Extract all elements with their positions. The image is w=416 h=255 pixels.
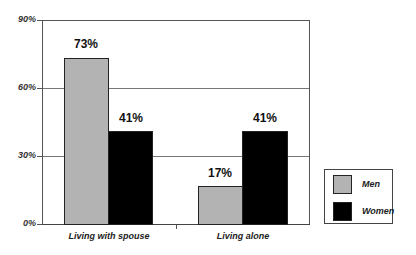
y-label-0: 0%: [2, 218, 36, 228]
bar-women-living-alone: [242, 131, 288, 225]
x-tick: [176, 225, 177, 229]
legend: Men Women: [324, 169, 393, 224]
bar-men-living-alone: [198, 186, 243, 225]
y-label-90: 90%: [2, 14, 36, 24]
y-tick: [37, 20, 42, 21]
legend-swatch-men: [333, 175, 352, 194]
category-label: Living alone: [176, 231, 310, 241]
bar-men-living-with-spouse: [64, 58, 109, 225]
bar-women-living-with-spouse: [108, 131, 153, 225]
legend-label-women: Women: [362, 206, 394, 216]
value-label: 41%: [242, 111, 288, 125]
y-tick: [37, 88, 42, 89]
y-label-60: 60%: [2, 82, 36, 92]
y-label-30: 30%: [2, 150, 36, 160]
value-label: 41%: [108, 111, 154, 125]
y-tick: [37, 156, 42, 157]
legend-label-men: Men: [362, 179, 380, 189]
value-label: 17%: [197, 166, 243, 180]
value-label: 73%: [63, 37, 109, 51]
category-label: Living with spouse: [42, 231, 176, 241]
y-tick: [37, 224, 42, 225]
legend-swatch-women: [333, 202, 352, 221]
